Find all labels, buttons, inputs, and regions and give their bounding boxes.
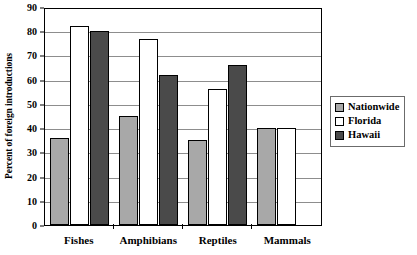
- legend-swatch-florida: [335, 117, 344, 126]
- bar-fishes-florida: [70, 26, 89, 225]
- legend-item-nationwide: Nationwide: [335, 100, 399, 114]
- plot-area: [44, 8, 322, 226]
- bar-group-reptiles: [183, 9, 252, 225]
- bar-amphibians-florida: [139, 39, 158, 226]
- x-axis-label-mammals: Mammals: [253, 230, 323, 252]
- y-axis-tick-label: 90: [27, 3, 37, 13]
- bar-fishes-nationwide: [50, 138, 69, 225]
- bar-reptiles-hawaii: [228, 65, 247, 225]
- y-axis-tick-label: 0: [32, 221, 37, 231]
- y-axis-tick-label: 60: [27, 76, 37, 86]
- legend-swatch-nationwide: [335, 103, 344, 112]
- bar-amphibians-nationwide: [119, 116, 138, 225]
- legend-label-hawaii: Hawaii: [348, 130, 380, 141]
- y-axis-tick-label: 20: [27, 173, 37, 183]
- y-axis-tick-label: 10: [27, 197, 37, 207]
- y-axis-title: Percent of foreign introductions: [4, 53, 14, 179]
- y-axis-tick-label: 30: [27, 148, 37, 158]
- legend-label-florida: Florida: [348, 116, 381, 127]
- bar-reptiles-florida: [208, 89, 227, 225]
- legend-swatch-hawaii: [335, 131, 344, 140]
- chart-legend: NationwideFloridaHawaii: [330, 96, 405, 147]
- bar-fishes-hawaii: [90, 31, 109, 225]
- x-axis-label-reptiles: Reptiles: [183, 230, 253, 252]
- bar-amphibians-hawaii: [159, 75, 178, 225]
- y-axis-tick-label: 70: [27, 51, 37, 61]
- bar-group-amphibians: [114, 9, 183, 225]
- bar-chart: Percent of foreign introductions 0102030…: [0, 0, 417, 255]
- legend-item-hawaii: Hawaii: [335, 128, 399, 142]
- y-axis-tick-label: 50: [27, 100, 37, 110]
- bar-group-mammals: [252, 9, 321, 225]
- bar-mammals-nationwide: [257, 128, 276, 225]
- x-axis-label-amphibians: Amphibians: [114, 230, 184, 252]
- y-axis-tick-label: 80: [27, 27, 37, 37]
- y-axis-tick-label: 40: [27, 124, 37, 134]
- bar-reptiles-nationwide: [188, 140, 207, 225]
- bar-mammals-florida: [277, 128, 296, 225]
- x-axis-labels: FishesAmphibiansReptilesMammals: [44, 230, 322, 252]
- legend-label-nationwide: Nationwide: [348, 102, 399, 113]
- y-axis-ticks: 0102030405060708090: [16, 8, 40, 226]
- bar-group-fishes: [45, 9, 114, 225]
- legend-item-florida: Florida: [335, 114, 399, 128]
- bars-layer: [45, 9, 321, 225]
- x-axis-label-fishes: Fishes: [44, 230, 114, 252]
